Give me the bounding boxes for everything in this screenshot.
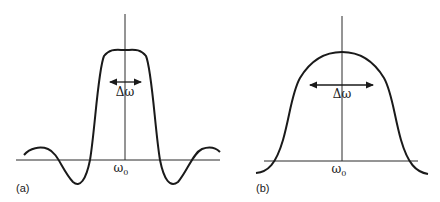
panel-b-label: (b) [256, 182, 269, 194]
panel-b-center-frequency-label: ω0 [332, 162, 347, 178]
panel-b-width-label: Δω [333, 87, 352, 101]
panel-a-label: (a) [16, 182, 29, 194]
panel-a-width-label: Δω [116, 85, 135, 99]
panel-a: Δω ω0 (a) [16, 14, 220, 194]
panel-a-center-frequency-label: ω0 [114, 161, 129, 177]
diagram-canvas: Δω ω0 (a) Δω ω0 (b) [0, 0, 440, 202]
panel-b: Δω ω0 (b) [256, 16, 428, 194]
